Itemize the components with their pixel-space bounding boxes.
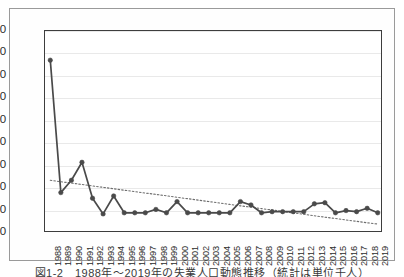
- y-axis-tick-label: 140: [0, 46, 6, 57]
- data-point-marker: [80, 160, 84, 164]
- data-point-marker: [59, 190, 63, 194]
- x-axis-tick-label: 1989: [63, 246, 73, 266]
- data-series: [45, 31, 382, 232]
- x-axis-tick-label: 1988: [53, 246, 63, 266]
- data-point-marker: [133, 211, 137, 215]
- data-point-marker: [259, 211, 263, 215]
- x-axis-tick-label: 2009: [275, 246, 285, 266]
- data-point-marker: [143, 211, 147, 215]
- data-point-marker: [90, 196, 94, 200]
- x-axis-tick-label: 1995: [127, 246, 137, 266]
- data-point-marker: [280, 209, 284, 213]
- data-point-marker: [196, 211, 200, 215]
- x-axis-tick-label: 1993: [106, 246, 116, 266]
- y-axis-tick-label: 100: [0, 91, 6, 102]
- y-axis-tick-label: 60: [0, 136, 6, 147]
- x-axis-tick-label: 2003: [211, 246, 221, 266]
- x-axis-tick-label: 1991: [85, 246, 95, 266]
- data-point-marker: [154, 207, 158, 211]
- x-axis-tick-label: 2010: [285, 246, 295, 266]
- x-axis-tick-label: 2012: [306, 246, 316, 266]
- x-axis-tick-label: 2019: [380, 246, 390, 266]
- y-axis-tick-label: 120: [0, 69, 6, 80]
- data-point-marker: [69, 178, 73, 182]
- data-point-marker: [101, 212, 105, 216]
- x-axis-tick-label: 1997: [148, 246, 158, 266]
- data-point-marker: [376, 211, 380, 215]
- x-axis-tick-label: 1994: [116, 246, 126, 266]
- data-point-marker: [333, 211, 337, 215]
- x-axis-tick-label: 1990: [74, 246, 84, 266]
- data-point-marker: [122, 211, 126, 215]
- x-axis-tick-label: 2016: [349, 246, 359, 266]
- data-point-marker: [228, 211, 232, 215]
- x-axis-tick-label: 1992: [95, 246, 105, 266]
- y-axis-tick-label: 160: [0, 24, 6, 35]
- y-axis-tick-label: 80: [0, 114, 6, 125]
- plot-area: [44, 30, 382, 232]
- x-axis-tick-label: 2013: [317, 246, 327, 266]
- chart-figure: -20020406080100120140160 198819891990199…: [0, 0, 404, 277]
- x-axis-tick-label: 2005: [232, 246, 242, 266]
- y-axis-tick-label: 20: [0, 181, 6, 192]
- data-point-marker: [207, 211, 211, 215]
- data-point-marker: [365, 206, 369, 210]
- x-axis-tick-label: 1999: [169, 246, 179, 266]
- data-point-marker: [164, 211, 168, 215]
- data-point-marker: [111, 194, 115, 198]
- x-axis-tick-label: 1998: [159, 246, 169, 266]
- data-point-marker: [291, 209, 295, 213]
- y-axis-tick-label: 0: [0, 204, 6, 215]
- y-axis-tick-label: -20: [0, 226, 6, 237]
- data-point-marker: [217, 211, 221, 215]
- data-point-marker: [354, 209, 358, 213]
- x-axis-tick-label: 2008: [264, 246, 274, 266]
- x-axis-tick-label: 2000: [180, 246, 190, 266]
- x-axis-tick-label: 2002: [201, 246, 211, 266]
- y-axis: -20020406080100120140160: [0, 0, 44, 262]
- x-axis-tick-label: 2018: [370, 246, 380, 266]
- x-axis-tick-label: 2004: [222, 246, 232, 266]
- data-point-marker: [302, 209, 306, 213]
- data-point-marker: [249, 203, 253, 207]
- x-axis-tick-label: 2007: [254, 246, 264, 266]
- data-point-marker: [270, 209, 274, 213]
- x-axis-tick-label: 2017: [359, 246, 369, 266]
- x-axis-tick-label: 2001: [190, 246, 200, 266]
- x-axis-tick-label: 2006: [243, 246, 253, 266]
- data-point-marker: [312, 202, 316, 206]
- data-point-marker: [48, 58, 52, 62]
- data-point-marker: [344, 208, 348, 212]
- x-axis-tick-label: 1996: [137, 246, 147, 266]
- y-axis-tick-label: 40: [0, 159, 6, 170]
- figure-caption: 図1-2 1988年～2019年の失業人口動態推移（統計は単位千人）: [0, 264, 404, 277]
- x-axis-tick-label: 2014: [328, 246, 338, 266]
- x-axis-tick-label: 2015: [338, 246, 348, 266]
- data-point-marker: [175, 199, 179, 203]
- data-point-marker: [185, 211, 189, 215]
- data-point-marker: [323, 201, 327, 205]
- data-point-marker: [238, 199, 242, 203]
